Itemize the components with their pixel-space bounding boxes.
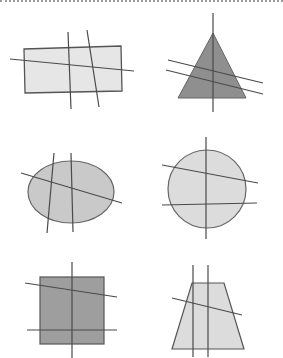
shape-rectangle: [10, 30, 134, 109]
shape-trapezoid: [172, 265, 244, 357]
circle-shape: [168, 150, 246, 228]
shapes-diagram: [0, 0, 283, 358]
shape-ellipse: [21, 153, 122, 233]
shape-square: [25, 262, 117, 358]
shape-triangle: [166, 13, 263, 112]
shape-circle: [162, 137, 258, 239]
rectangle-shape: [24, 46, 122, 93]
